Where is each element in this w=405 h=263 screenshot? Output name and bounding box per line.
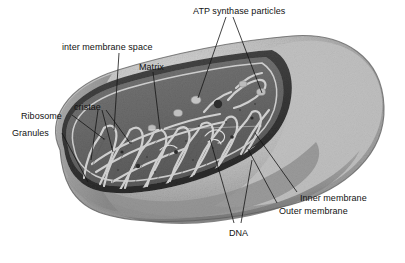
mitochondrion-illustration	[0, 0, 405, 263]
label-cristae: cristae	[74, 102, 101, 112]
label-inner-membrane: Inner membrane	[300, 193, 367, 203]
label-inter-membrane-space: inter membrane space	[62, 42, 153, 52]
mitochondrion-figure: ATP synthase particles inter membrane sp…	[0, 0, 405, 263]
label-outer-membrane: Outer membrane	[279, 206, 348, 216]
label-dna: DNA	[229, 228, 248, 238]
label-matrix: Matrix	[139, 62, 164, 72]
label-granules: Granules	[12, 128, 49, 138]
label-atp-synthase-particles: ATP synthase particles	[193, 6, 285, 16]
label-ribosome: Ribosome	[21, 111, 62, 121]
